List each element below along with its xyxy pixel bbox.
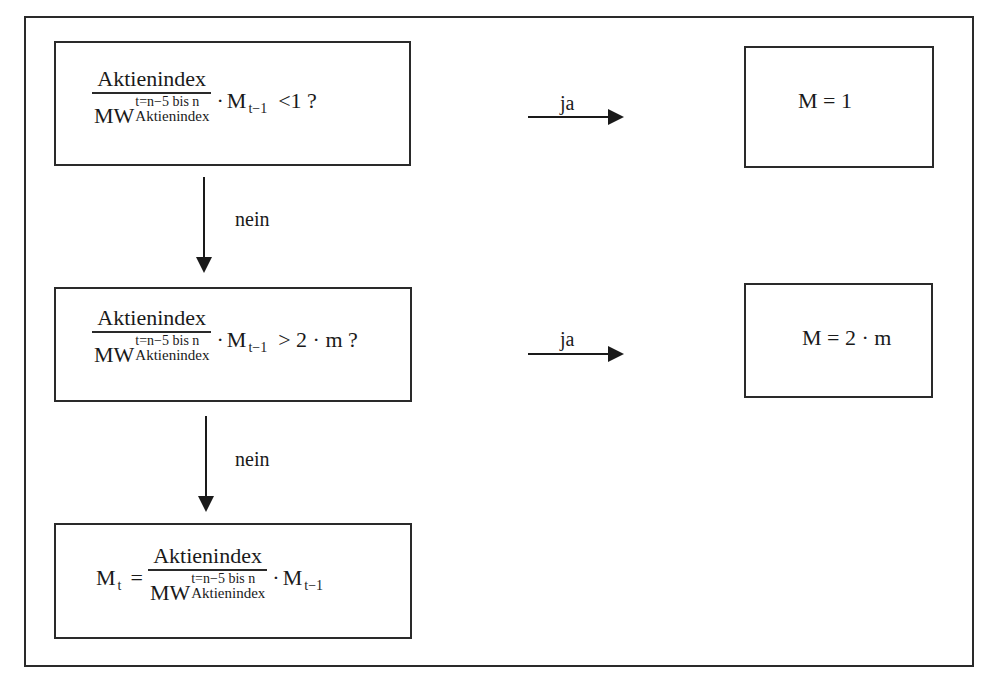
result-box-2: M = 2 · m (744, 283, 933, 398)
edge-label-nein-2: nein (235, 448, 269, 471)
result-1-text: M = 1 (798, 88, 852, 114)
edge-label-ja-1: ja (560, 92, 574, 115)
fraction: Aktienindex MW t=n−5 bis n Aktienindex (92, 66, 211, 136)
arrow-down-icon (205, 416, 207, 510)
arrow-down-icon (203, 177, 205, 271)
fraction: Aktienindex MW t=n−5 bis n Aktienindex (148, 543, 267, 613)
arrow-right-icon (528, 116, 622, 118)
denominator: MW t=n−5 bis n Aktienindex (92, 333, 211, 375)
comparison: <1 ? (275, 88, 320, 114)
arrow-right-icon (528, 353, 622, 355)
edge-label-nein-1: nein (235, 208, 269, 231)
decision-1-formula: Aktienindex MW t=n−5 bis n Aktienindex ·… (90, 66, 320, 136)
denominator: MW t=n−5 bis n Aktienindex (92, 94, 211, 136)
comparison: > 2 · m ? (275, 327, 361, 353)
numerator: Aktienindex (93, 305, 210, 331)
edge-label-ja-2: ja (560, 328, 574, 351)
decision-2-formula: Aktienindex MW t=n−5 bis n Aktienindex ·… (90, 305, 361, 375)
fraction: Aktienindex MW t=n−5 bis n Aktienindex (92, 305, 211, 375)
process-formula: M t = Aktienindex MW t=n−5 bis n Aktieni… (96, 543, 323, 613)
decision-box-2: Aktienindex MW t=n−5 bis n Aktienindex ·… (54, 287, 412, 402)
result-2-text: M = 2 · m (802, 325, 891, 351)
numerator: Aktienindex (149, 543, 266, 569)
process-box: M t = Aktienindex MW t=n−5 bis n Aktieni… (54, 523, 412, 639)
result-box-1: M = 1 (744, 46, 934, 168)
denominator: MW t=n−5 bis n Aktienindex (148, 571, 267, 613)
decision-box-1: Aktienindex MW t=n−5 bis n Aktienindex ·… (54, 41, 411, 166)
numerator: Aktienindex (93, 66, 210, 92)
